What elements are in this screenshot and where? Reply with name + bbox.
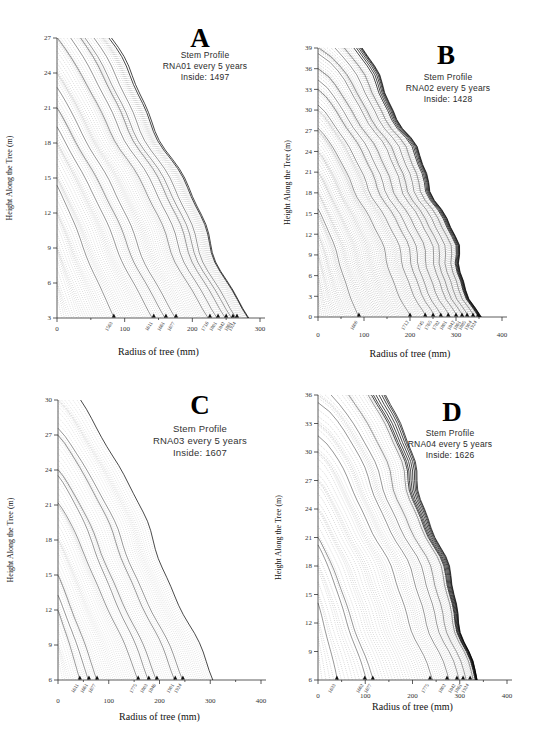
stem-profile-line [318, 173, 377, 317]
stem-profile-line [57, 71, 189, 318]
stem-profile-line [57, 181, 117, 318]
stem-profile-line [57, 179, 119, 318]
y-tick-label: 9 [48, 244, 52, 252]
y-tick-label: 24 [44, 69, 52, 77]
y-tick-label: 33 [305, 86, 313, 94]
stem-profile-line [318, 429, 435, 680]
y-tick-label: 27 [305, 477, 313, 485]
stem-profile-line [318, 564, 360, 680]
y-axis-title: Height Along the Tree (m) [5, 135, 14, 220]
x-axis-title: Radius of tree (mm) [118, 346, 199, 358]
y-tick-label: 21 [305, 534, 313, 542]
stem-profile-line [58, 470, 156, 681]
year-arrow-icon [224, 314, 228, 318]
stem-profile-line [57, 111, 159, 318]
stem-profile-line [318, 294, 322, 317]
year-label: 1775 [128, 682, 138, 694]
x-tick-label: 300 [205, 697, 216, 705]
x-tick-label: 0 [56, 697, 60, 705]
y-tick-label: 27 [305, 127, 313, 135]
stem-profile-line [58, 613, 78, 680]
x-tick-label: 0 [316, 692, 320, 700]
stem-profile-line [57, 109, 161, 318]
y-tick-label: 30 [305, 106, 313, 114]
year-label: 1563 [104, 320, 114, 332]
stem-profile-line [318, 511, 386, 681]
stem-profile-line [318, 94, 431, 317]
panel-c-caption: Stem Profile RNA03 every 5 years Inside:… [118, 423, 282, 459]
stem-profile-line [318, 131, 406, 317]
year-label: 1611 [70, 682, 80, 693]
stem-profile-line [58, 468, 158, 680]
stem-profile-line [318, 481, 404, 680]
stem-profile-line [318, 267, 330, 317]
caption-line: RNA03 every 5 years [118, 435, 282, 447]
stem-profile-line [318, 147, 398, 317]
stem-profile-line [318, 593, 345, 680]
caption-line: Inside: 1626 [368, 450, 532, 461]
stem-profile-line [318, 88, 438, 317]
year-arrow-icon [164, 314, 168, 318]
y-tick-label: 18 [305, 189, 313, 197]
year-arrow-icon [335, 676, 339, 680]
y-tick-label: 27 [45, 431, 53, 439]
stem-profile-line [318, 619, 334, 680]
x-tick-label: 200 [154, 697, 165, 705]
year-label: 1677 [87, 682, 97, 694]
stem-profile-line [318, 493, 399, 680]
stem-profile-line [318, 582, 349, 680]
stem-profile-line [318, 537, 373, 680]
stem-profile-line [57, 215, 98, 319]
stem-profile-line [318, 138, 401, 317]
panel-a-letter: A [150, 24, 250, 52]
year-label: 1924 [460, 682, 470, 694]
stem-profile-line [58, 505, 134, 680]
year-arrow-icon [216, 314, 220, 318]
stem-profile-line [58, 454, 165, 680]
year-label: 1924 [173, 682, 183, 694]
y-tick-label: 15 [305, 591, 313, 599]
stem-profile-line [57, 242, 89, 318]
year-arrow-icon [371, 676, 375, 680]
y-tick-label: 24 [305, 148, 313, 156]
y-tick-label: 9 [49, 641, 53, 649]
panel-a-caption: Stem Profile RNA01 every 5 years Inside:… [125, 50, 285, 83]
stem-profile-line [57, 68, 191, 318]
y-tick-label: 30 [45, 396, 53, 404]
stem-profile-line [58, 658, 63, 680]
stem-profile-line [57, 213, 103, 318]
stem-profile-line [57, 296, 62, 318]
stem-profile-line [57, 185, 114, 318]
stem-profile-line [318, 171, 382, 317]
stem-profile-line [318, 150, 396, 317]
year-arrow-icon [174, 314, 178, 318]
stem-profile-line [318, 214, 355, 318]
stem-profile-line [57, 77, 179, 318]
stem-profile-line [57, 127, 152, 318]
stem-profile-line [57, 72, 187, 318]
stem-profile-line [318, 172, 380, 317]
stem-profile-line [57, 146, 137, 318]
y-axis-title: Height Along the Tree (m) [274, 495, 283, 580]
stem-profile-line [58, 505, 136, 681]
x-tick-label: 0 [316, 331, 320, 339]
stem-profile-line [58, 541, 113, 681]
stem-profile-line [57, 200, 110, 318]
stem-profile-line [57, 219, 96, 319]
y-tick-label: 15 [44, 174, 52, 182]
panel-c-letter: C [150, 391, 250, 419]
caption-line: RNA01 every 5 years [125, 61, 285, 72]
stem-profile-line [318, 502, 396, 680]
x-axis-title: Radius of tree (mm) [119, 711, 200, 723]
stem-profile-line [57, 225, 93, 318]
stem-profile-line [57, 94, 173, 319]
stem-profile-line [318, 539, 370, 680]
stem-profile-line [58, 536, 120, 680]
year-label: 1677 [166, 320, 176, 332]
stem-profile-line [318, 111, 419, 317]
y-tick-label: 15 [45, 571, 53, 579]
stem-profile-line [318, 131, 408, 317]
y-tick-label: 6 [48, 279, 52, 287]
stem-profile-line [318, 452, 426, 681]
stem-profile-line [318, 158, 387, 317]
